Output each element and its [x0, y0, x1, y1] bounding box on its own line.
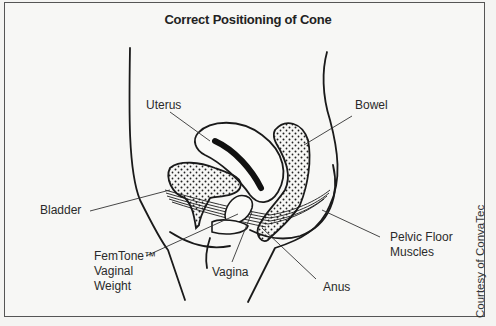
label-pelvic-floor-muscles: Pelvic Floor Muscles [390, 230, 453, 260]
image-credit: Courtesy of ConvaTec [474, 205, 486, 318]
label-bladder: Bladder [40, 203, 81, 218]
label-anus: Anus [323, 280, 350, 295]
femtone-cone [212, 196, 252, 234]
label-bowel: Bowel [355, 98, 388, 113]
label-femtone-weight: FemTone™ Vaginal Weight [94, 249, 156, 294]
label-uterus: Uterus [146, 98, 181, 113]
label-vagina: Vagina [212, 265, 248, 280]
